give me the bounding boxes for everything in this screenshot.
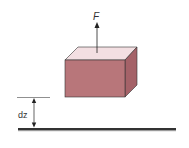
box: [65, 47, 137, 97]
ground-line: [18, 128, 176, 130]
distance-label: dz: [18, 110, 28, 120]
force-label: F: [93, 11, 100, 22]
force-arrow-head: [95, 22, 100, 28]
box-front-face: [65, 60, 125, 97]
box-top-face: [65, 47, 137, 60]
force-diagram: F dz: [0, 0, 189, 148]
ground-shadow: [18, 130, 176, 131]
distance-arrow-up-head: [32, 98, 36, 103]
distance-arrow-down-head: [32, 123, 36, 128]
